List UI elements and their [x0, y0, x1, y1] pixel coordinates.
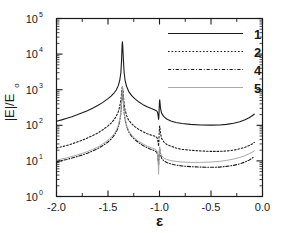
y-tick-exponent: 5: [39, 11, 43, 18]
y-tick-label: 10: [26, 155, 38, 167]
y-tick-exponent: 0: [39, 189, 43, 196]
curves-group: [57, 42, 255, 174]
series-line-5: [57, 87, 255, 174]
y-tick-label: 10: [26, 84, 38, 96]
x-tick-label: -0.5: [202, 201, 221, 213]
y-tick-exponent: 3: [39, 82, 43, 89]
legend-label-2: 2: [254, 45, 261, 60]
y-tick-exponent: 4: [39, 46, 43, 53]
x-tick-label: -1.5: [99, 201, 118, 213]
series-line-4: [57, 88, 255, 168]
legend-label-5: 5: [254, 81, 261, 96]
line-chart: 100101102103104105-2.0-1.5-1.0-0.50.0ε|E…: [0, 0, 286, 233]
y-axis-title: |E|/Eo: [2, 83, 21, 122]
legend-label-4: 4: [254, 63, 262, 78]
y-tick-label: 10: [26, 48, 38, 60]
series-line-1: [57, 42, 255, 125]
y-tick-label: 10: [26, 191, 38, 203]
x-axis-title: ε: [156, 212, 163, 229]
series-line-2: [57, 86, 255, 151]
legend-label-1: 1: [254, 27, 261, 42]
x-tick-label: -1.0: [150, 201, 169, 213]
x-tick-label: 0.0: [255, 201, 270, 213]
y-tick-exponent: 2: [39, 117, 43, 124]
figure-container: 100101102103104105-2.0-1.5-1.0-0.50.0ε|E…: [0, 0, 286, 233]
y-tick-label: 10: [26, 119, 38, 131]
y-tick-exponent: 1: [39, 153, 43, 160]
y-axis-title-subscript: o: [12, 83, 21, 88]
y-tick-label: 10: [26, 13, 38, 25]
y-axis-title-text: |E|/E: [2, 93, 17, 121]
x-tick-label: -2.0: [47, 201, 66, 213]
